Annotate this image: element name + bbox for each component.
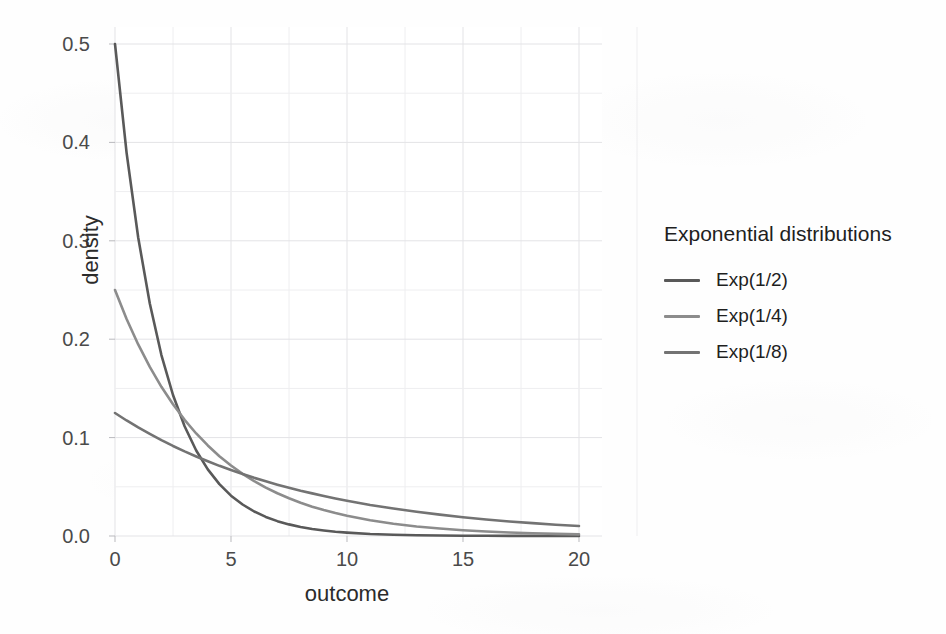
x-tick-label: 5: [201, 548, 261, 571]
legend-item-label: Exp(1/4): [716, 305, 788, 327]
legend-key-line-icon: [664, 315, 700, 318]
x-tick-label: 20: [549, 548, 609, 571]
y-tick-label: 0.1: [30, 426, 90, 450]
legend-key-line-icon: [664, 279, 700, 282]
legend-title: Exponential distributions: [664, 222, 934, 246]
legend-item-label: Exp(1/2): [716, 269, 788, 291]
legend-key-line-icon: [664, 351, 700, 354]
legend-item[interactable]: Exp(1/4): [664, 298, 934, 334]
y-axis-title: density: [77, 180, 105, 320]
axis-tick-marks: [109, 44, 579, 542]
y-tick-label: 0.2: [30, 327, 90, 351]
legend-item[interactable]: Exp(1/8): [664, 334, 934, 370]
x-axis-title: outcome: [232, 581, 462, 607]
x-tick-label: 15: [433, 548, 493, 571]
x-tick-label: 0: [85, 548, 145, 571]
legend: Exponential distributions Exp(1/2)Exp(1/…: [664, 222, 934, 370]
chart-page: 0.00.10.20.30.40.5 05101520 density outc…: [0, 0, 946, 634]
y-tick-label: 0.4: [30, 130, 90, 154]
y-tick-label: 0.0: [30, 524, 90, 548]
gridlines: [115, 27, 637, 536]
legend-item[interactable]: Exp(1/2): [664, 262, 934, 298]
x-tick-label: 10: [317, 548, 377, 571]
legend-item-label: Exp(1/8): [716, 341, 788, 363]
y-tick-label: 0.5: [30, 32, 90, 56]
legend-items: Exp(1/2)Exp(1/4)Exp(1/8): [664, 262, 934, 370]
